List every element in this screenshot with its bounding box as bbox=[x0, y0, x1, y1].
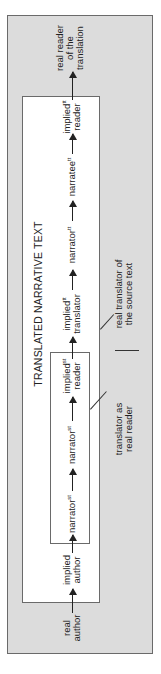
node-superscript: st bbox=[66, 426, 72, 431]
node-implied-author: implied author bbox=[62, 555, 82, 585]
node-label: translator bbox=[72, 294, 82, 334]
arrow-icon bbox=[72, 270, 73, 290]
gray-label-line: the source text bbox=[124, 260, 134, 329]
arrow-icon bbox=[72, 589, 73, 613]
node-real-author: real author bbox=[62, 615, 82, 642]
node-label: narrator bbox=[66, 500, 77, 533]
node-superscript: st bbox=[61, 359, 67, 364]
node-implied-reader-st: impliedst reader bbox=[62, 359, 82, 394]
arrow-icon bbox=[72, 134, 73, 154]
node-superscript: tt bbox=[66, 227, 72, 230]
gray-label-line: real reader bbox=[124, 403, 134, 455]
arrow-icon bbox=[72, 397, 73, 421]
node-narratee-tt: narrateett bbox=[67, 158, 77, 197]
node-label: narratee bbox=[66, 161, 77, 196]
narrative-communication-diagram: TRANSLATED NARRATIVE TEXT real author im… bbox=[0, 0, 161, 674]
node-label: author bbox=[72, 555, 82, 585]
arrow-icon bbox=[72, 201, 73, 221]
arrow-icon bbox=[72, 535, 73, 553]
arrow-icon bbox=[72, 337, 73, 359]
node-label: translation bbox=[75, 25, 85, 71]
diagram-title: TRANSLATED NARRATIVE TEXT bbox=[32, 174, 44, 434]
node-label: narrator bbox=[66, 230, 77, 263]
arrow-icon bbox=[72, 72, 73, 100]
label-translator-as-real-reader: translator as real reader bbox=[114, 403, 134, 455]
node-superscript: tt bbox=[66, 158, 72, 161]
node-narrator-st: narratorst bbox=[67, 495, 77, 533]
node-implied-translator-tt: impliedtt translator bbox=[62, 294, 82, 334]
node-real-reader-translation: real reader of the translation bbox=[55, 25, 85, 71]
node-label: narrator bbox=[66, 431, 77, 464]
arrow-icon bbox=[72, 469, 73, 491]
node-superscript: tt bbox=[61, 100, 67, 103]
node-superscript: tt bbox=[61, 297, 67, 300]
node-implied-reader-tt: impliedtt reader bbox=[62, 100, 82, 133]
label-real-translator-source-text: real translator of the source text bbox=[114, 260, 134, 329]
node-label: reader bbox=[72, 100, 82, 133]
node-narratee-st: narratorst bbox=[67, 426, 77, 464]
node-superscript: st bbox=[66, 495, 72, 500]
node-label: reader bbox=[72, 359, 82, 394]
node-label: author bbox=[72, 615, 82, 642]
separator-line bbox=[115, 350, 139, 351]
node-narrator-tt: narratortt bbox=[67, 227, 77, 264]
